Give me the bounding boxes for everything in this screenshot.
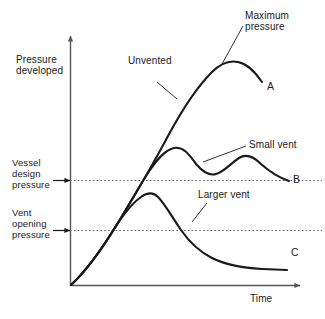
curve-small-vent-b bbox=[71, 148, 289, 285]
leader-small-vent bbox=[203, 146, 246, 162]
leader-maximum-pressure bbox=[222, 26, 243, 64]
larger-vent-label: Larger vent bbox=[198, 189, 250, 200]
y-axis-label: Pressure developed bbox=[16, 54, 63, 76]
curve-end-c-label: C bbox=[291, 247, 299, 258]
vent-opening-pressure-label: Vent opening pressure bbox=[12, 207, 50, 240]
small-vent-label: Small vent bbox=[249, 139, 297, 150]
maximum-pressure-label: Maximum pressure bbox=[245, 10, 289, 32]
curve-larger-vent-c bbox=[71, 193, 287, 285]
x-axis-label: Time bbox=[250, 293, 272, 304]
vessel-design-pressure-label: Vessel design pressure bbox=[12, 157, 50, 190]
curve-end-a-label: A bbox=[267, 81, 274, 92]
leader-larger-vent bbox=[192, 203, 207, 222]
leader-unvented bbox=[157, 82, 177, 99]
curve-end-b-label: B bbox=[293, 174, 300, 185]
unvented-label: Unvented bbox=[128, 55, 172, 66]
figure-container: Pressure developed Time Vessel design pr… bbox=[0, 0, 325, 319]
